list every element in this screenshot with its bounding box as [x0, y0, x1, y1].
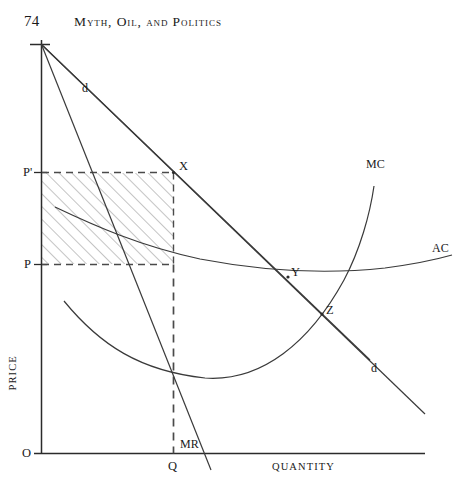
origin-label: O [22, 447, 31, 460]
point-z-label: Z [326, 304, 334, 317]
price-tick-label-p: P [24, 258, 31, 271]
y-axis-title: PRICE [8, 355, 19, 390]
marginal-revenue-label: MR [180, 438, 199, 450]
average-cost-label: AC [432, 242, 449, 254]
profit-rectangle [42, 173, 173, 264]
x-axis-title: QUANTITY [272, 462, 335, 473]
quantity-tick-label-q: Q [168, 460, 177, 473]
point-y-label: Y [291, 266, 300, 279]
demand-firm-label: d [82, 82, 88, 94]
economics-diagram: P' P O Q PRICE QUANTITY d d MR MC AC X Y… [0, 0, 474, 495]
point-x-marker [172, 171, 175, 174]
point-y-marker [286, 275, 289, 278]
marginal-cost-label: MC [366, 158, 385, 170]
point-x-label: X [179, 160, 188, 173]
demand-market-label: d [371, 362, 377, 374]
price-tick-label-p-prime: P' [23, 166, 32, 179]
textbook-page: 74 Myth, Oil, and Politics [0, 0, 474, 495]
point-z-marker [320, 312, 323, 315]
